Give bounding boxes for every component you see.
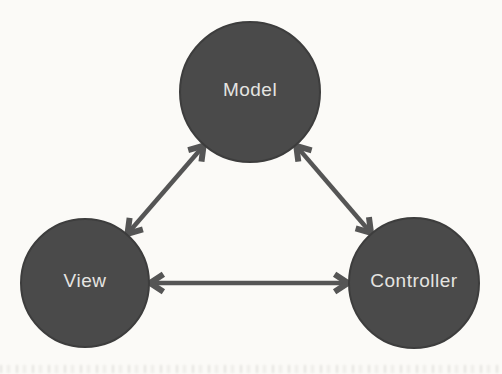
mvc-diagram: ModelViewController [0, 0, 502, 374]
node-controller: Controller [349, 218, 479, 348]
diagram-canvas: ModelViewController [0, 0, 502, 374]
node-view: View [21, 219, 149, 347]
node-label-model: Model [223, 79, 277, 100]
edge-shaft [296, 146, 371, 233]
edge-model-view [127, 146, 203, 234]
edge-view-controller [150, 274, 348, 292]
edge-shaft [127, 146, 203, 234]
node-model: Model [180, 22, 320, 162]
node-label-controller: Controller [370, 270, 458, 291]
node-label-view: View [64, 270, 107, 291]
edge-model-controller [296, 146, 371, 233]
